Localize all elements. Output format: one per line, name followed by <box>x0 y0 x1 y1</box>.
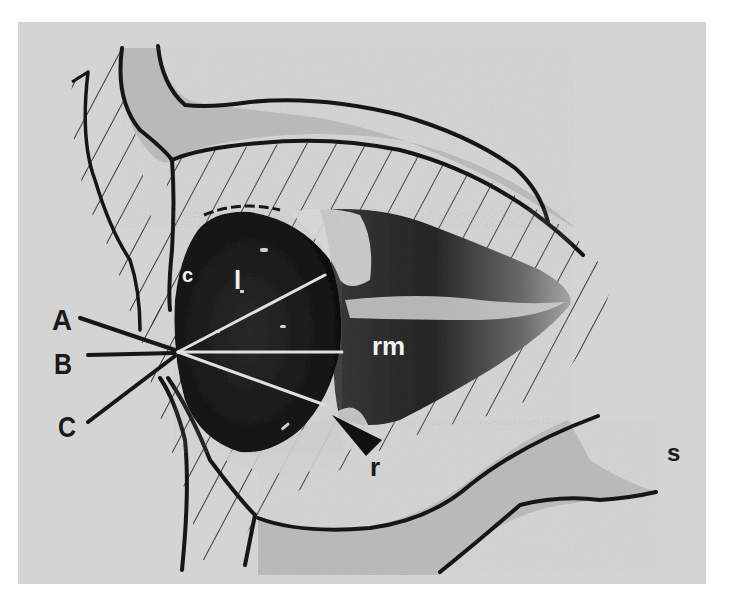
orbit-diagram: A B C c l rm r s <box>0 0 740 598</box>
label-lens: l <box>234 265 241 295</box>
axis-label-a: A <box>52 303 72 336</box>
label-rectus-muscle: rm <box>372 331 405 361</box>
axis-label-b: B <box>54 347 72 380</box>
label-retina: r <box>370 452 380 482</box>
axis-line-b-outer <box>88 353 175 355</box>
label-sinus: s <box>667 439 680 466</box>
label-cornea: c <box>182 264 193 286</box>
axis-label-c: C <box>58 410 76 443</box>
